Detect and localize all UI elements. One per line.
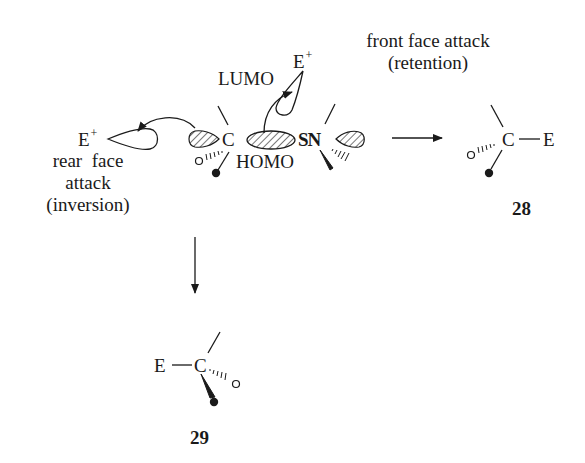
homo-orbital — [247, 131, 295, 149]
electrophile-symbol: E — [78, 129, 90, 150]
tin-rear-lobe — [336, 131, 364, 147]
front-electrophile-label: E+ — [293, 52, 312, 71]
carbon-bottom-bond — [218, 152, 229, 170]
rear-caption-line3: (inversion) — [28, 194, 148, 216]
p29-hashed-wedge — [210, 369, 226, 380]
p29-filled-substituent — [210, 398, 218, 406]
p29-carbon-label: C — [194, 356, 207, 375]
p29-bold-wedge — [201, 374, 215, 398]
p28-bottom-bond — [491, 150, 502, 169]
p29-top-bond — [208, 332, 220, 353]
p28-open-substituent — [468, 152, 475, 159]
carbon-hashed-wedge — [206, 151, 222, 160]
tin-atom-label: SN — [298, 130, 320, 149]
rear-electrophile-lobe — [108, 129, 158, 150]
p29-e-label: E — [154, 356, 166, 375]
p29-open-substituent — [233, 381, 240, 388]
rear-electrophile-label: E+ — [78, 130, 97, 149]
carbon-top-bond — [218, 106, 228, 125]
electrophile-symbol: E — [293, 51, 305, 72]
electrophile-charge: + — [91, 126, 98, 140]
p28-hashed-wedge — [478, 144, 494, 153]
tin-bold-wedge — [320, 150, 333, 170]
lumo-label: LUMO — [218, 69, 274, 88]
front-attack-caption: front face attack (retention) — [338, 30, 518, 74]
carbon-filled-substituent — [212, 169, 220, 177]
rear-attack-caption: rear face attack (inversion) — [28, 150, 148, 216]
rear-caption-line1: rear face — [28, 150, 148, 172]
tin-top-bond — [325, 104, 335, 124]
homo-label: HOMO — [236, 152, 294, 171]
carbon-open-substituent — [196, 158, 203, 165]
carbon-rear-lobe — [189, 131, 219, 147]
carbon-atom-label: C — [222, 130, 235, 149]
front-caption-line2: (retention) — [338, 52, 518, 74]
tin-hashed-wedge — [332, 149, 349, 161]
p28-e-label: E — [543, 130, 555, 149]
rear-caption-line2: attack — [28, 172, 148, 194]
p28-carbon-label: C — [502, 130, 515, 149]
p28-filled-substituent — [485, 169, 493, 177]
compound-29-label: 29 — [190, 428, 209, 447]
front-caption-line1: front face attack — [338, 30, 518, 52]
compound-28-label: 28 — [512, 199, 531, 218]
electrophile-charge: + — [306, 48, 313, 62]
p28-top-bond — [491, 105, 503, 127]
